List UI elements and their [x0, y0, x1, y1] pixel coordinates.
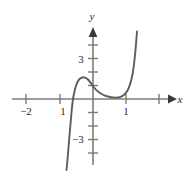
x-axis-arrowhead: [168, 95, 177, 104]
y-axis-arrowhead: [89, 27, 98, 37]
y-axis-label: y: [89, 10, 95, 22]
y-tick-label-pos3: 3: [78, 53, 84, 65]
y-tick-label-neg3: −3: [72, 133, 84, 145]
graph-figure: x y −2 1 1 3 −3: [0, 0, 195, 178]
x-tick-label-neg1: 1: [60, 105, 66, 117]
x-tick-label-neg2: −2: [20, 105, 32, 117]
x-tick-label-pos1: 1: [123, 105, 129, 117]
x-axis-label: x: [177, 93, 183, 105]
coordinate-plane: x y −2 1 1 3 −3: [0, 0, 195, 178]
